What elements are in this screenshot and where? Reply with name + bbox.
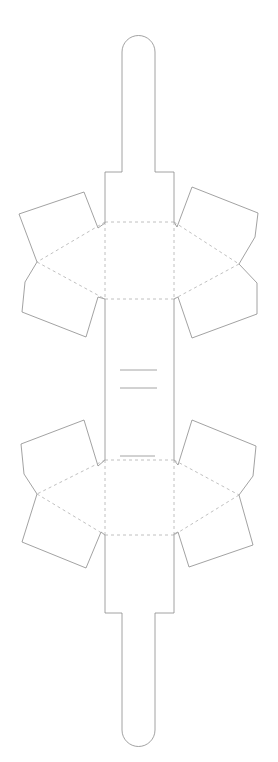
- background: [0, 0, 278, 762]
- dieline-svg: [0, 0, 278, 762]
- dieline-canvas: [0, 0, 278, 762]
